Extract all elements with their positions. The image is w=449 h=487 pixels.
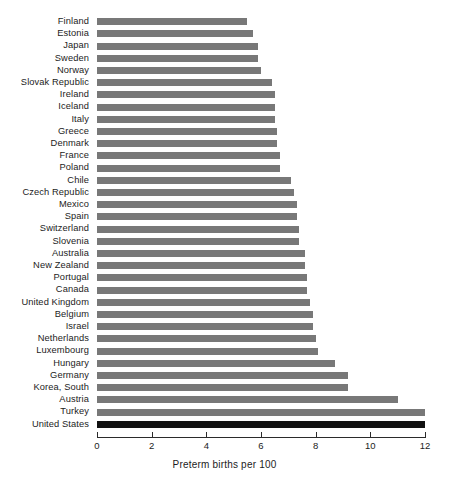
- bar: [97, 384, 348, 391]
- category-label: Canada: [0, 284, 89, 295]
- bar: [97, 238, 299, 245]
- x-axis-tick-label: 4: [204, 440, 209, 452]
- bar: [97, 140, 277, 147]
- category-label: Czech Republic: [0, 187, 89, 198]
- bar: [97, 262, 305, 269]
- category-label: Iceland: [0, 101, 89, 112]
- category-label: Australia: [0, 248, 89, 259]
- category-label: Turkey: [0, 406, 89, 417]
- bar: [97, 55, 258, 62]
- bar-row: Germany: [0, 370, 449, 382]
- bar-row: Austria: [0, 394, 449, 406]
- bar: [97, 67, 261, 74]
- bar: [97, 396, 398, 403]
- category-label: Poland: [0, 162, 89, 173]
- bar: [97, 226, 299, 233]
- category-label: United Kingdom: [0, 297, 89, 308]
- category-label: France: [0, 150, 89, 161]
- bar-row: Luxembourg: [0, 345, 449, 357]
- category-label: Portugal: [0, 272, 89, 283]
- category-label: Austria: [0, 394, 89, 405]
- category-label: Finland: [0, 16, 89, 27]
- plot-area: FinlandEstoniaJapanSwedenNorwaySlovak Re…: [0, 0, 449, 440]
- bar-row: Poland: [0, 162, 449, 174]
- category-label: Switzerland: [0, 223, 89, 234]
- bar: [97, 104, 275, 111]
- category-label: Korea, South: [0, 382, 89, 393]
- category-label: Estonia: [0, 28, 89, 39]
- category-label: Mexico: [0, 199, 89, 210]
- bar-row: Mexico: [0, 199, 449, 211]
- bar: [97, 372, 348, 379]
- bar: [97, 311, 313, 318]
- category-label: Netherlands: [0, 333, 89, 344]
- category-label: Japan: [0, 40, 89, 51]
- bar: [97, 250, 305, 257]
- bar-row: Chile: [0, 175, 449, 187]
- bar: [97, 421, 425, 428]
- category-label: Sweden: [0, 53, 89, 64]
- bar-row: United Kingdom: [0, 297, 449, 309]
- bar: [97, 91, 275, 98]
- category-label: Spain: [0, 211, 89, 222]
- category-label: Italy: [0, 114, 89, 125]
- category-label: Luxembourg: [0, 345, 89, 356]
- bar-row: Finland: [0, 16, 449, 28]
- bar-row: Portugal: [0, 272, 449, 284]
- bar: [97, 360, 335, 367]
- category-label: United States: [0, 419, 89, 430]
- x-axis-tick-label: 2: [149, 440, 154, 452]
- x-axis-tick-label: 10: [365, 440, 376, 452]
- bar: [97, 43, 258, 50]
- x-axis-tick-label: 6: [258, 440, 263, 452]
- x-axis-title: Preterm births per 100: [0, 459, 449, 470]
- category-label: Belgium: [0, 309, 89, 320]
- bar-row: Norway: [0, 65, 449, 77]
- x-axis-tick-label: 12: [420, 440, 431, 452]
- bar: [97, 18, 247, 25]
- bar: [97, 189, 294, 196]
- bar-row: New Zealand: [0, 260, 449, 272]
- bar: [97, 274, 307, 281]
- preterm-births-bar-chart: FinlandEstoniaJapanSwedenNorwaySlovak Re…: [0, 0, 449, 487]
- bar-row: Estonia: [0, 28, 449, 40]
- bar: [97, 323, 313, 330]
- x-axis-tick-label: 0: [94, 440, 99, 452]
- bar: [97, 165, 280, 172]
- bar-row: Netherlands: [0, 333, 449, 345]
- bar-row: Greece: [0, 126, 449, 138]
- bar-row: Australia: [0, 248, 449, 260]
- category-label: Slovak Republic: [0, 77, 89, 88]
- x-axis-tick-label: 8: [313, 440, 318, 452]
- bar: [97, 79, 272, 86]
- bar-row: Italy: [0, 114, 449, 126]
- bar-row: Belgium: [0, 309, 449, 321]
- category-label: Greece: [0, 126, 89, 137]
- bar-row: Czech Republic: [0, 187, 449, 199]
- category-label: Israel: [0, 321, 89, 332]
- bar-row: Japan: [0, 40, 449, 52]
- bar: [97, 348, 318, 355]
- bar-row: Korea, South: [0, 382, 449, 394]
- category-label: Norway: [0, 65, 89, 76]
- bar-row: Denmark: [0, 138, 449, 150]
- category-label: Denmark: [0, 138, 89, 149]
- bar-row: Spain: [0, 211, 449, 223]
- bar: [97, 299, 310, 306]
- bar-row: Slovenia: [0, 236, 449, 248]
- bar-row: Hungary: [0, 358, 449, 370]
- bar-row: France: [0, 150, 449, 162]
- bar: [97, 287, 307, 294]
- bar-row: Israel: [0, 321, 449, 333]
- bar: [97, 116, 275, 123]
- bar-row: Switzerland: [0, 223, 449, 235]
- bar-row: Ireland: [0, 89, 449, 101]
- bar-row: Turkey: [0, 406, 449, 418]
- bar: [97, 128, 277, 135]
- bar-row: Iceland: [0, 101, 449, 113]
- category-label: Ireland: [0, 89, 89, 100]
- category-label: Germany: [0, 370, 89, 381]
- bar-row: Canada: [0, 284, 449, 296]
- bar-row: Slovak Republic: [0, 77, 449, 89]
- bar: [97, 30, 253, 37]
